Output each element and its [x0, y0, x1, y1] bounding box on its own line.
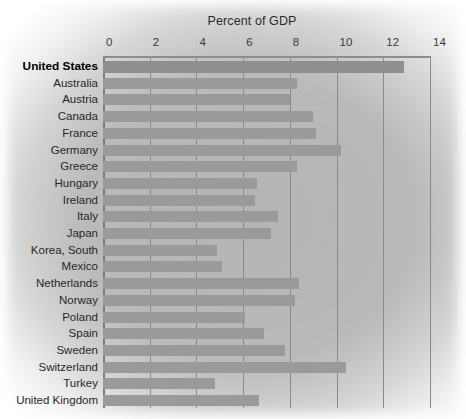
bar-japan: [103, 228, 271, 239]
bar-row: Japan: [0, 225, 466, 243]
bar-row: United States: [0, 58, 466, 76]
bar-france: [103, 128, 316, 139]
bar-row: France: [0, 125, 466, 143]
bar-row: Australia: [0, 75, 466, 93]
x-tick-label-12: 12: [386, 36, 399, 48]
bar-germany: [103, 145, 341, 156]
bar-row: Italy: [0, 208, 466, 226]
bar-row: Poland: [0, 309, 466, 327]
bar-poland: [103, 312, 245, 323]
x-tick-label-4: 4: [199, 36, 205, 48]
bar-norway: [103, 295, 295, 306]
x-tick-label-8: 8: [293, 36, 299, 48]
bar-united-states: [103, 61, 404, 73]
bar-canada: [103, 111, 313, 122]
category-label-turkey: Turkey: [0, 375, 98, 393]
bar-austria: [103, 94, 290, 105]
bar-ireland: [103, 195, 255, 206]
category-label-korea-south: Korea, South: [0, 242, 98, 260]
bar-sweden: [103, 345, 285, 356]
bar-row: Mexico: [0, 258, 466, 276]
category-label-united-kingdom: United Kingdom: [0, 392, 98, 410]
x-tick-label-10: 10: [340, 36, 353, 48]
bar-row: Hungary: [0, 175, 466, 193]
bar-row: Switzerland: [0, 359, 466, 377]
category-label-sweden: Sweden: [0, 342, 98, 360]
bar-mexico: [103, 261, 222, 272]
bar-row: Greece: [0, 158, 466, 176]
bar-korea-south: [103, 245, 217, 256]
bar-spain: [103, 328, 264, 339]
bar-row: Netherlands: [0, 275, 466, 293]
bar-row: United Kingdom: [0, 392, 466, 410]
category-label-hungary: Hungary: [0, 175, 98, 193]
category-label-germany: Germany: [0, 142, 98, 160]
bar-italy: [103, 211, 278, 222]
category-label-spain: Spain: [0, 325, 98, 343]
bar-hungary: [103, 178, 257, 189]
bar-row: Germany: [0, 142, 466, 160]
bar-row: Norway: [0, 292, 466, 310]
bar-row: Ireland: [0, 192, 466, 210]
category-label-greece: Greece: [0, 158, 98, 176]
bar-switzerland: [103, 362, 346, 373]
category-label-australia: Australia: [0, 75, 98, 93]
bar-row: Austria: [0, 91, 466, 109]
category-label-norway: Norway: [0, 292, 98, 310]
category-label-canada: Canada: [0, 108, 98, 126]
chart-title: Percent of GDP: [0, 14, 466, 28]
category-label-japan: Japan: [0, 225, 98, 243]
category-label-netherlands: Netherlands: [0, 275, 98, 293]
category-label-austria: Austria: [0, 91, 98, 109]
bar-row: Spain: [0, 325, 466, 343]
bar-australia: [103, 78, 297, 89]
bar-row: Sweden: [0, 342, 466, 360]
bar-row: Korea, South: [0, 242, 466, 260]
bar-rows: United StatesAustraliaAustriaCanadaFranc…: [0, 58, 466, 408]
bar-greece: [103, 161, 297, 172]
x-tick-label-14: 14: [433, 36, 446, 48]
bar-row: Turkey: [0, 375, 466, 393]
category-label-poland: Poland: [0, 309, 98, 327]
category-label-france: France: [0, 125, 98, 143]
bar-netherlands: [103, 278, 299, 289]
bar-row: Canada: [0, 108, 466, 126]
bar-turkey: [103, 378, 215, 389]
category-label-united-states: United States: [0, 58, 98, 76]
category-label-mexico: Mexico: [0, 258, 98, 276]
x-tick-label-0: 0: [106, 36, 112, 48]
category-label-italy: Italy: [0, 208, 98, 226]
category-label-ireland: Ireland: [0, 192, 98, 210]
category-label-switzerland: Switzerland: [0, 359, 98, 377]
chart-root: Percent of GDP 02468101214 United States…: [0, 0, 466, 419]
x-tick-label-2: 2: [153, 36, 159, 48]
x-tick-label-6: 6: [246, 36, 252, 48]
bar-united-kingdom: [103, 395, 259, 406]
